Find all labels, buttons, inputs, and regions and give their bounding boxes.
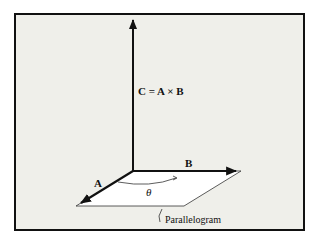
angle-label: θ bbox=[146, 186, 152, 198]
vector-b-label: B bbox=[185, 157, 193, 169]
equation-label: C = A × B bbox=[138, 85, 184, 97]
parallelogram-label: Parallelogram bbox=[165, 214, 221, 225]
vector-a-label: A bbox=[94, 177, 102, 189]
cross-product-diagram: C = A × B B A θ Parallelogram bbox=[0, 0, 313, 244]
